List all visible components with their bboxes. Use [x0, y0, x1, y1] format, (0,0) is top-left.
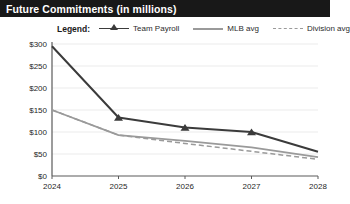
y-axis-tick-label: $100 [29, 128, 47, 137]
mlb-avg-line-icon [193, 24, 223, 33]
legend-entry-label: Team Payroll [133, 24, 179, 33]
y-axis-tick-label: $150 [29, 106, 47, 115]
legend-entry-mlb-avg: MLB avg [193, 24, 259, 33]
legend-label: Legend: [57, 24, 90, 34]
chart-plot-area: $0$50$100$150$200$250$300202420252026202… [0, 36, 330, 204]
series-line-mlb-avg [52, 110, 318, 157]
y-axis-tick-label: $200 [29, 84, 47, 93]
legend-entry-division-avg: Division avg [273, 24, 350, 33]
x-axis-tick-label: 2026 [176, 182, 194, 191]
legend-entry-team-payroll: Team Payroll [99, 24, 179, 33]
team-payroll-marker-icon [99, 24, 129, 33]
chart-legend: Legend: Team Payroll MLB avg Division av… [57, 22, 325, 35]
x-axis-tick-label: 2028 [309, 182, 327, 191]
page-title: Future Commitments (in millions) [6, 3, 177, 15]
legend-entry-label: MLB avg [227, 24, 259, 33]
legend-entry-label: Division avg [307, 24, 350, 33]
y-axis-tick-label: $300 [29, 40, 47, 49]
y-axis-tick-label: $0 [38, 172, 47, 181]
x-axis-tick-label: 2027 [243, 182, 261, 191]
x-axis-tick-label: 2025 [110, 182, 128, 191]
line-chart: $0$50$100$150$200$250$300202420252026202… [0, 36, 330, 204]
x-axis-tick-label: 2024 [43, 182, 61, 191]
series-line-team-payroll [52, 46, 318, 152]
division-avg-dashed-line-icon [273, 24, 303, 33]
y-axis-tick-label: $250 [29, 62, 47, 71]
panel-title-bar: Future Commitments (in millions) [0, 0, 330, 17]
y-axis-tick-label: $50 [34, 150, 48, 159]
